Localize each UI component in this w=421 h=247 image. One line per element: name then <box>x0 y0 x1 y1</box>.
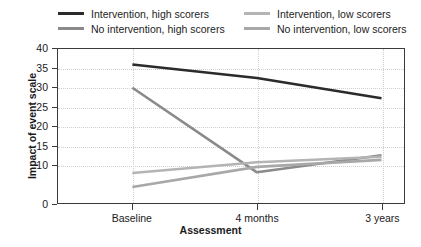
line-chart: Intervention, high scorersNo interventio… <box>0 0 421 247</box>
legend-swatch-icon <box>58 12 84 15</box>
y-axis-tick-label: 10 <box>36 160 48 170</box>
x-axis-tick-label: Baseline <box>87 212 177 224</box>
legend-item-label: No intervention, high scorers <box>91 23 225 35</box>
legend-item[interactable]: Intervention, high scorers <box>58 7 209 20</box>
legend-swatch-icon <box>244 27 270 30</box>
legend-item[interactable]: Intervention, low scorers <box>244 7 391 20</box>
chart-legend: Intervention, high scorersNo interventio… <box>58 6 403 36</box>
legend-swatch-icon <box>58 27 84 30</box>
y-axis-tick-label: 25 <box>36 102 48 112</box>
y-axis-tick-label: 40 <box>36 43 48 53</box>
x-axis-tick-label: 4 months <box>212 212 302 224</box>
y-axis-title: Impact of event scale <box>26 46 38 206</box>
x-axis-title: Assessment <box>0 224 421 236</box>
series-line <box>132 157 381 173</box>
legend-item-label: Intervention, high scorers <box>91 8 209 20</box>
y-axis-title-wrap: Impact of event scale <box>10 60 24 180</box>
y-axis-tick-label: 15 <box>36 141 48 151</box>
legend-item[interactable]: No intervention, high scorers <box>58 22 225 35</box>
series-line <box>132 65 381 99</box>
x-axis-tick-mark <box>382 204 383 210</box>
legend-item-label: No intervention, low scorers <box>277 23 407 35</box>
legend-item[interactable]: No intervention, low scorers <box>244 22 407 35</box>
x-axis-tick-mark <box>132 204 133 210</box>
legend-swatch-icon <box>244 12 270 15</box>
series-layer <box>58 49 404 204</box>
legend-item-label: Intervention, low scorers <box>277 8 391 20</box>
x-axis-tick-label: 3 years <box>337 212 421 224</box>
y-axis-tick-label: 35 <box>36 63 48 73</box>
plot-area <box>57 48 405 204</box>
x-axis-tick-mark <box>257 204 258 210</box>
y-axis-tick-label: 30 <box>36 82 48 92</box>
y-axis-tick-label: 20 <box>36 121 48 131</box>
